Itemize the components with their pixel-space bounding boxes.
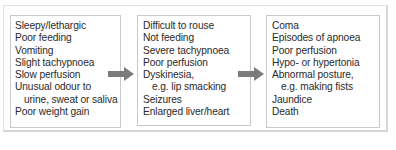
symptom-item-continuation: urine, sweat or saliva [15,94,120,106]
symptom-item-continuation: e.g. lip smacking [143,81,250,93]
symptom-item: Slight tachypnoea [15,57,120,69]
symptom-item: Death [272,106,379,118]
symptom-item: Abnormal posture, [272,69,379,81]
stage-box-intermediate: Difficult to rouse Not feeding Severe ta… [137,15,251,126]
right-arrow-icon [238,67,264,81]
symptom-item: Episodes of apnoea [272,32,379,44]
symptom-item: Seizures [143,94,250,106]
symptom-item-continuation: e.g. making fists [272,81,379,93]
symptom-item: Unusual odour to [15,81,120,93]
symptom-item: Sleepy/lethargic [15,20,120,32]
symptom-item: Poor feeding [15,32,120,44]
symptom-item: Not feeding [143,32,250,44]
symptom-item: Vomiting [15,45,120,57]
symptom-item: Hypo- or hypertonia [272,57,379,69]
stage-box-early: Sleepy/lethargic Poor feeding Vomiting S… [10,15,121,128]
symptom-list: Sleepy/lethargic Poor feeding Vomiting S… [15,20,120,118]
symptom-item: Jaundice [272,94,379,106]
symptom-item: Poor weight gain [15,106,120,118]
symptom-item: Severe tachypnoea [143,45,250,57]
symptom-item: Dyskinesia, [143,69,250,81]
symptom-item: Difficult to rouse [143,20,250,32]
symptom-item: Coma [272,20,379,32]
symptom-item: Poor perfusion [143,57,250,69]
symptom-list: Coma Episodes of apnoea Poor perfusion H… [272,20,379,118]
symptom-list: Difficult to rouse Not feeding Severe ta… [143,20,250,118]
symptom-item: Poor perfusion [272,45,379,57]
symptom-item: Slow perfusion [15,69,120,81]
stage-box-late: Coma Episodes of apnoea Poor perfusion H… [266,15,380,128]
right-arrow-icon [108,67,134,81]
symptom-item: Enlarged liver/heart [143,106,250,118]
